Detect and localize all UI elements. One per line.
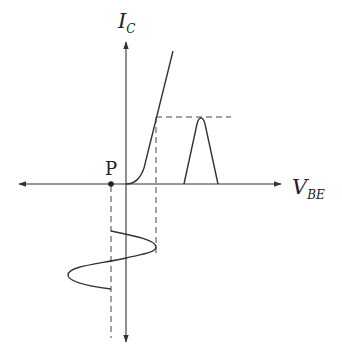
bias-point-label: P (105, 160, 117, 178)
bjt-transfer-diagram: IC VBE P (0, 0, 342, 344)
input-sine-wave (68, 231, 156, 289)
vbe-axis-label: VBE (292, 177, 325, 198)
vbe-label-main: V (292, 175, 307, 199)
output-current-pulse (184, 118, 218, 184)
vbe-label-sub: BE (307, 188, 325, 202)
ic-label-sub: C (126, 22, 135, 36)
ic-axis-label: IC (118, 11, 135, 32)
bias-point-p-dot (108, 181, 114, 187)
characteristic-curve (126, 51, 173, 184)
